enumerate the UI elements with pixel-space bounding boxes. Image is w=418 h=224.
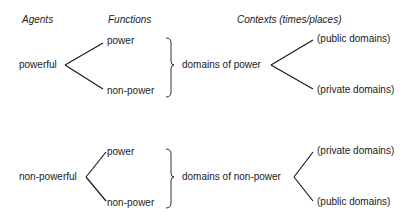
- connector-lines: [0, 0, 418, 224]
- branch-line: [86, 177, 106, 201]
- branch-line: [271, 40, 313, 65]
- bracket-icon: [166, 38, 174, 97]
- branch-line: [86, 152, 106, 177]
- branch-line: [65, 65, 103, 89]
- branch-line: [294, 152, 313, 177]
- bracket-icon: [166, 149, 174, 208]
- branch-line: [65, 43, 103, 65]
- branch-line: [271, 65, 313, 89]
- branch-line: [294, 177, 313, 201]
